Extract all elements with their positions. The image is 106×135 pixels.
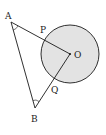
geometry-diagram: A P O Q B [0, 0, 106, 135]
label-o: O [74, 50, 81, 60]
angle-mark-a [13, 26, 18, 30]
label-b: B [31, 114, 38, 124]
center-dot-o [69, 53, 71, 55]
label-p: P [40, 25, 46, 35]
label-a: A [4, 11, 12, 21]
angle-mark-b [33, 100, 39, 102]
label-q: Q [51, 85, 58, 95]
segment-ab [11, 22, 35, 108]
